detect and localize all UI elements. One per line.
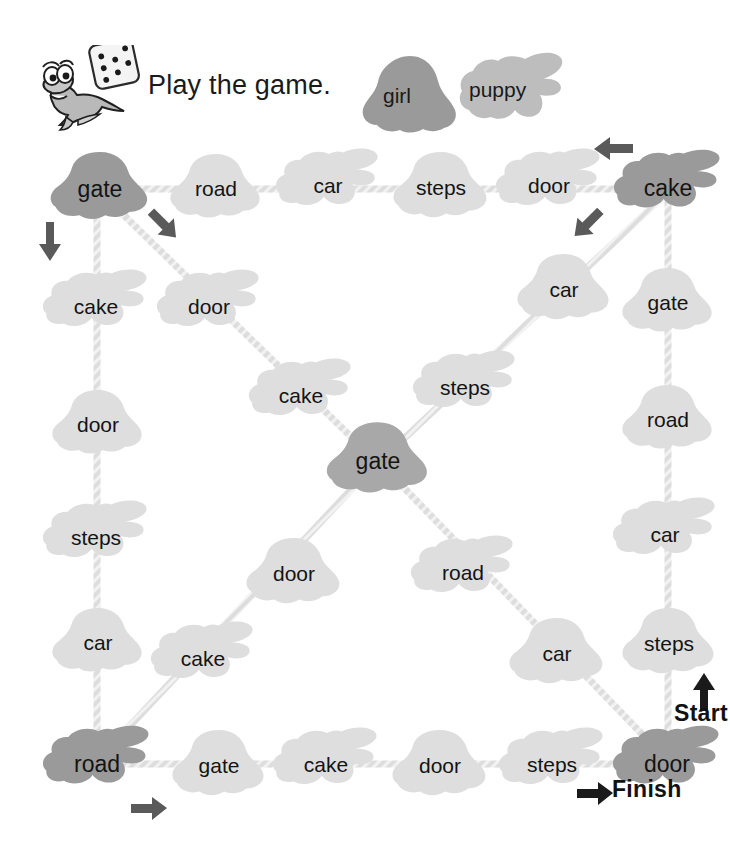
girl-blob-icon bbox=[46, 148, 154, 230]
board-node-door[interactable]: door bbox=[156, 266, 262, 348]
board-node-car[interactable]: car bbox=[275, 145, 381, 227]
board-node-road[interactable]: road bbox=[410, 532, 516, 614]
puppy-blob-icon bbox=[42, 722, 152, 806]
puppy-blob-icon bbox=[272, 724, 380, 806]
board-node-steps[interactable]: steps bbox=[389, 148, 493, 228]
puppy-blob-icon bbox=[412, 347, 518, 429]
girl-blob-icon bbox=[48, 386, 148, 464]
girl-blob-icon bbox=[389, 148, 493, 228]
board-node-car[interactable]: car bbox=[505, 614, 609, 694]
board-node-gate[interactable]: gate bbox=[168, 726, 270, 806]
board-node-steps[interactable]: steps bbox=[412, 347, 518, 429]
girl-blob-icon bbox=[618, 381, 718, 459]
start-label: Start bbox=[674, 700, 728, 727]
puppy-blob-icon bbox=[42, 266, 150, 348]
board-node-steps[interactable]: steps bbox=[42, 497, 150, 579]
puppy-blob-icon bbox=[156, 266, 262, 348]
board-node-car[interactable]: car bbox=[513, 250, 615, 330]
puppy-blob-icon bbox=[612, 494, 718, 576]
board-node-door[interactable]: door bbox=[242, 534, 346, 614]
arrow-diagonal-from-top-right bbox=[570, 205, 606, 243]
puppy-blob-icon bbox=[42, 497, 150, 579]
puppy-blob-icon bbox=[248, 355, 354, 437]
game-board-page: Play the game. girl puppy bbox=[0, 0, 730, 856]
arrow-finish bbox=[576, 780, 614, 808]
board-node-cake[interactable]: cake bbox=[42, 266, 150, 348]
arrow-right-bottom-left bbox=[130, 795, 168, 823]
board-node-door[interactable]: door bbox=[388, 726, 492, 806]
board-node-cake[interactable]: cake bbox=[272, 724, 380, 806]
board-node-road[interactable]: road bbox=[42, 722, 152, 806]
legend-label-girl: girl bbox=[383, 84, 411, 108]
girl-blob-icon bbox=[242, 534, 346, 614]
puppy-blob-icon bbox=[410, 532, 516, 614]
board-node-road[interactable]: road bbox=[618, 381, 718, 459]
puppy-blob-icon bbox=[150, 618, 256, 700]
girl-blob-icon bbox=[505, 614, 609, 694]
girl-blob-icon bbox=[618, 264, 718, 342]
arrow-down-left-corner bbox=[36, 222, 64, 262]
board-node-cake[interactable]: cake bbox=[248, 355, 354, 437]
girl-blob-icon bbox=[48, 604, 148, 682]
girl-blob-icon bbox=[388, 726, 492, 806]
girl-blob-icon bbox=[168, 726, 270, 806]
arrow-left-top-right bbox=[592, 134, 634, 164]
board-node-gate[interactable]: gate bbox=[618, 264, 718, 342]
arrow-diagonal-from-top-left bbox=[146, 205, 182, 243]
board-node-car[interactable]: car bbox=[48, 604, 148, 682]
legend-label-puppy: puppy bbox=[469, 78, 526, 102]
girl-blob-icon bbox=[513, 250, 615, 330]
board-node-gate[interactable]: gate bbox=[46, 148, 154, 230]
board-node-door[interactable]: door bbox=[48, 386, 148, 464]
board-node-car[interactable]: car bbox=[612, 494, 718, 576]
puppy-blob-icon bbox=[275, 145, 381, 227]
finish-label: Finish bbox=[612, 776, 682, 803]
board-node-cake[interactable]: cake bbox=[150, 618, 256, 700]
